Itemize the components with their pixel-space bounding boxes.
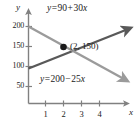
graph-figure: y x 200 150 100 50 1 2 3 4 y=90+30x y=20… <box>0 0 140 123</box>
intersection-point-marker <box>60 44 67 51</box>
equation-rising-intercept: 90 <box>58 3 68 13</box>
y-tick-label-50: 50 <box>4 82 24 90</box>
line-falling-200-minus-25x <box>29 27 125 80</box>
y-tick-label-100: 100 <box>4 62 24 70</box>
x-tick-label-1: 1 <box>41 110 51 119</box>
equation-label-rising: y=90+30x <box>47 4 87 14</box>
x-tick-label-2: 2 <box>59 110 69 119</box>
x-tick-label-4: 4 <box>95 110 105 119</box>
intersection-point-label: (2, 150) <box>70 42 99 51</box>
x-axis-label: x <box>129 108 133 117</box>
equation-label-falling: y=200−25x <box>40 75 85 85</box>
equation-falling-intercept: 200 <box>51 74 65 84</box>
equation-falling-variable: x <box>81 74 85 84</box>
y-tick-label-150: 150 <box>4 42 24 50</box>
equation-rising-variable: x <box>83 3 87 13</box>
equation-falling-slope: 25 <box>71 74 81 84</box>
y-axis-label: y <box>16 3 20 12</box>
y-tick-label-200: 200 <box>4 22 24 30</box>
equation-rising-slope: 30 <box>73 3 83 13</box>
x-tick-label-3: 3 <box>77 110 87 119</box>
